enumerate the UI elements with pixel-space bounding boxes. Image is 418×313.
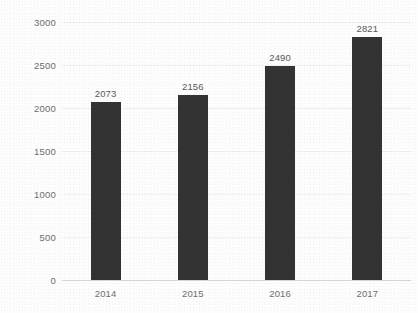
y-axis-tick-label: 0 [0, 275, 56, 286]
y-axis-tick-label: 2500 [0, 60, 56, 71]
bar[interactable] [91, 102, 121, 280]
x-axis-tick-label: 2016 [250, 288, 310, 299]
x-axis-tick-label: 2017 [337, 288, 397, 299]
x-axis-line [62, 280, 411, 281]
y-axis-tick-label: 3000 [0, 17, 56, 28]
bar-value-label: 2490 [250, 52, 310, 63]
bar-value-label: 2073 [76, 88, 136, 99]
bar-value-label: 2821 [337, 23, 397, 34]
bar[interactable] [265, 66, 295, 280]
y-axis-tick-label: 500 [0, 232, 56, 243]
x-axis-tick-label: 2015 [163, 288, 223, 299]
bar[interactable] [352, 37, 382, 280]
y-axis-tick-label: 1500 [0, 146, 56, 157]
bar-value-label: 2156 [163, 81, 223, 92]
bar[interactable] [178, 95, 208, 280]
plot-area [62, 22, 411, 280]
y-axis-tick-label: 1000 [0, 189, 56, 200]
x-axis-tick-label: 2014 [76, 288, 136, 299]
y-axis-tick-label: 2000 [0, 103, 56, 114]
bar-chart: 050010001500200025003000 207321562490282… [0, 0, 418, 313]
